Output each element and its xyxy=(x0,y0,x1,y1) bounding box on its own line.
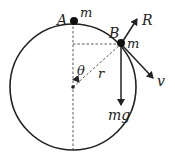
label-m-top: m xyxy=(80,5,92,20)
label-A: A xyxy=(55,12,67,28)
label-theta: θ xyxy=(77,63,85,78)
mass-at-A xyxy=(70,17,78,25)
sphere-diagram: A m B m R v mg θ r xyxy=(0,0,175,157)
center-point xyxy=(71,85,75,89)
label-R: R xyxy=(141,12,153,28)
label-m-B: m xyxy=(127,36,139,51)
theta-arc xyxy=(73,79,79,82)
label-B: B xyxy=(108,25,119,41)
label-mg: mg xyxy=(108,107,130,123)
label-v: v xyxy=(157,73,165,89)
label-r: r xyxy=(98,66,105,81)
